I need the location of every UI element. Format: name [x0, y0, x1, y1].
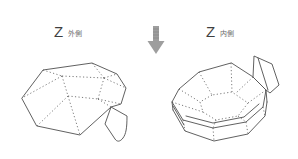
outer-side-drawing [12, 55, 137, 150]
outer-view-label: Z 外側 [54, 24, 83, 39]
inner-view-sublabel: 内側 [220, 27, 235, 37]
bowl-fold-lines [172, 63, 266, 128]
inner-side-drawing [163, 52, 291, 152]
diagram-canvas: Z 外側 Z 内側 [0, 0, 298, 159]
inner-view-label: Z 内側 [206, 24, 235, 39]
down-arrow-icon [147, 25, 165, 55]
dome-flap [105, 107, 127, 141]
bowl-flap [253, 56, 279, 93]
bowl-rim-outline [172, 63, 266, 128]
outer-view-letter: Z [54, 24, 64, 39]
outer-view-sublabel: 外側 [68, 27, 83, 37]
inner-view-letter: Z [206, 24, 216, 39]
